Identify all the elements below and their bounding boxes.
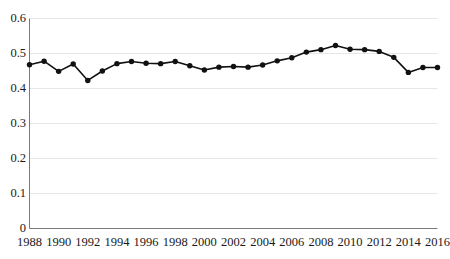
x-tick-label: 2014 bbox=[396, 236, 421, 249]
x-tick-label: 2006 bbox=[279, 236, 304, 249]
x-tick-label: 2002 bbox=[221, 236, 246, 249]
x-tick-label: 1990 bbox=[46, 236, 71, 249]
x-tick-label: 1994 bbox=[104, 236, 129, 249]
x-tick-label: 1998 bbox=[163, 236, 188, 249]
x-tick-label: 2000 bbox=[192, 236, 217, 249]
x-tick-label: 2004 bbox=[250, 236, 275, 249]
x-tick-label: 2016 bbox=[425, 236, 450, 249]
x-tick-label: 1992 bbox=[75, 236, 100, 249]
x-tick-label: 1988 bbox=[17, 236, 42, 249]
x-tick-label: 1996 bbox=[134, 236, 159, 249]
x-tick-label: 2008 bbox=[308, 236, 333, 249]
x-tick-label: 2010 bbox=[338, 236, 363, 249]
x-tick-label: 2012 bbox=[367, 236, 392, 249]
